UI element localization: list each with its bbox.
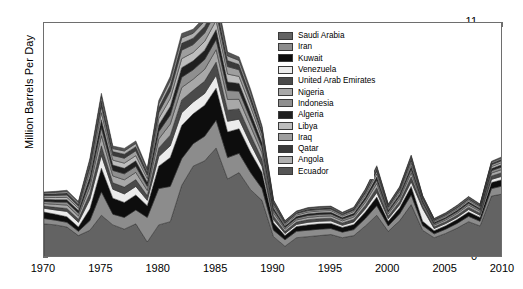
stacked-area-series (44, 23, 502, 257)
legend-item: Venezuela (278, 64, 372, 75)
legend-label: Algeria (298, 110, 324, 119)
x-tick-label: 1990 (250, 262, 296, 274)
legend-label: Qatar (298, 144, 318, 153)
x-tick-label: 1975 (77, 262, 123, 274)
legend-swatch-icon (278, 77, 293, 85)
legend-item: Ecuador (278, 166, 372, 177)
legend-item: Iraq (278, 132, 372, 143)
legend-swatch-icon (278, 43, 293, 51)
legend-label: Iran (298, 42, 312, 51)
x-tick-mark (502, 22, 503, 27)
legend-label: Libya (298, 122, 318, 131)
legend-swatch-icon (278, 167, 293, 175)
legend-swatch-icon (278, 122, 293, 130)
y-tick-mark (43, 257, 48, 258)
legend-label: Saudi Arabia (298, 31, 344, 40)
legend-swatch-icon (278, 133, 293, 141)
legend-item: Nigeria (278, 86, 372, 97)
chart-legend: Saudi ArabiaIranKuwaitVenezuelaUnited Ar… (276, 28, 374, 179)
legend-label: Venezuela (298, 65, 336, 74)
legend-swatch-icon (278, 99, 293, 107)
legend-item: Libya (278, 120, 372, 131)
legend-label: Angola (298, 155, 324, 164)
legend-swatch-icon (278, 88, 293, 96)
legend-item: United Arab Emirates (278, 75, 372, 86)
legend-swatch-icon (278, 156, 293, 164)
x-tick-label: 1995 (307, 262, 353, 274)
legend-label: Nigeria (298, 88, 324, 97)
legend-item: Iran (278, 41, 372, 52)
x-tick-label: 1985 (192, 262, 238, 274)
x-tick-label: 2005 (422, 262, 468, 274)
x-tick-label: 1970 (20, 262, 66, 274)
legend-label: Indonesia (298, 99, 334, 108)
legend-item: Qatar (278, 143, 372, 154)
legend-swatch-icon (278, 111, 293, 119)
x-tick-label: 2010 (479, 262, 523, 274)
legend-swatch-icon (278, 54, 293, 62)
legend-item: Kuwait (278, 53, 372, 64)
plot-area (43, 22, 502, 257)
legend-swatch-icon (278, 66, 293, 74)
y-axis-label: Million Barrels Per Day (23, 0, 35, 192)
legend-swatch-icon (278, 145, 293, 153)
x-tick-label: 2000 (364, 262, 410, 274)
chart-figure: Million Barrels Per Day 01234567891011 1… (0, 0, 523, 289)
legend-label: Iraq (298, 133, 312, 142)
legend-item: Indonesia (278, 98, 372, 109)
legend-label: Ecuador (298, 167, 329, 176)
legend-item: Saudi Arabia (278, 30, 372, 41)
legend-label: United Arab Emirates (298, 76, 375, 85)
legend-label: Kuwait (298, 54, 323, 63)
x-tick-label: 1980 (135, 262, 181, 274)
legend-item: Algeria (278, 109, 372, 120)
legend-item: Angola (278, 154, 372, 165)
legend-swatch-icon (278, 32, 293, 40)
